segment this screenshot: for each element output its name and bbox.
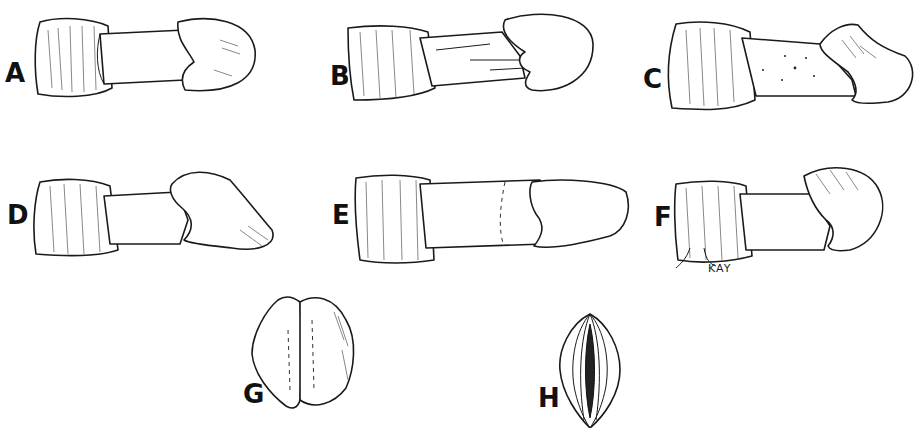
- panel-f: F KAY: [640, 160, 915, 280]
- illustration-h: [530, 290, 650, 428]
- panel-b: B: [320, 0, 620, 140]
- illustration-g: [230, 290, 380, 428]
- illustration-b: [320, 0, 620, 140]
- illustration-c: [620, 0, 915, 140]
- panel-d: D: [0, 160, 300, 280]
- illustration-a: [0, 0, 300, 140]
- artist-signature: KAY: [708, 262, 731, 275]
- panel-g: G: [230, 290, 380, 428]
- panel-h: H: [530, 290, 650, 428]
- panel-c: C: [620, 0, 915, 140]
- illustration-d: [0, 160, 300, 280]
- panel-e: E: [320, 160, 640, 280]
- illustration-f: [640, 160, 915, 280]
- illustration-e: [320, 160, 640, 280]
- panel-a: A: [0, 0, 300, 140]
